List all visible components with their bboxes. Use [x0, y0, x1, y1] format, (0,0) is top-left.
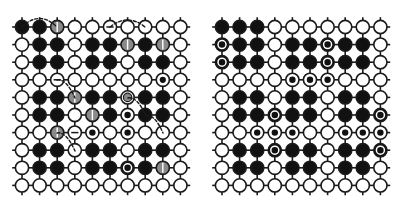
empty-cell[interactable] — [268, 56, 281, 69]
empty-cell[interactable] — [174, 20, 187, 33]
filled-cell[interactable] — [86, 91, 99, 104]
filled-cell[interactable] — [51, 144, 64, 157]
filled-cell[interactable] — [233, 144, 246, 157]
filled-cell[interactable] — [339, 91, 352, 104]
gray-marked-cell[interactable] — [51, 20, 64, 33]
filled-cell[interactable] — [233, 20, 246, 33]
empty-cell[interactable] — [251, 179, 264, 192]
empty-cell-with-black-dot[interactable] — [374, 126, 387, 139]
filled-cell-with-white-dot[interactable] — [374, 108, 387, 121]
filled-cell[interactable] — [356, 144, 369, 157]
filled-cell[interactable] — [356, 56, 369, 69]
empty-cell-with-black-dot[interactable] — [121, 126, 134, 139]
empty-cell[interactable] — [268, 91, 281, 104]
filled-cell[interactable] — [251, 20, 264, 33]
empty-cell[interactable] — [321, 144, 334, 157]
filled-cell[interactable] — [356, 91, 369, 104]
filled-cell[interactable] — [286, 56, 299, 69]
filled-cell[interactable] — [339, 38, 352, 51]
empty-cell[interactable] — [356, 179, 369, 192]
filled-cell[interactable] — [251, 91, 264, 104]
empty-cell[interactable] — [15, 91, 28, 104]
filled-cell-with-white-dot[interactable] — [215, 56, 228, 69]
empty-cell[interactable] — [156, 179, 169, 192]
filled-cell[interactable] — [303, 108, 316, 121]
empty-cell[interactable] — [374, 56, 387, 69]
empty-cell[interactable] — [268, 179, 281, 192]
filled-cell[interactable] — [286, 144, 299, 157]
filled-cell[interactable] — [339, 108, 352, 121]
filled-cell-with-white-dot[interactable] — [321, 56, 334, 69]
empty-cell[interactable] — [215, 161, 228, 174]
empty-cell[interactable] — [33, 73, 46, 86]
empty-cell[interactable] — [15, 38, 28, 51]
filled-cell[interactable] — [33, 91, 46, 104]
filled-cell[interactable] — [103, 108, 116, 121]
filled-cell[interactable] — [86, 161, 99, 174]
empty-cell[interactable] — [174, 91, 187, 104]
filled-cell[interactable] — [303, 38, 316, 51]
filled-cell[interactable] — [33, 161, 46, 174]
filled-cell[interactable] — [339, 144, 352, 157]
empty-cell[interactable] — [268, 38, 281, 51]
empty-cell[interactable] — [174, 38, 187, 51]
filled-cell-with-white-dot[interactable] — [268, 108, 281, 121]
empty-cell[interactable] — [86, 179, 99, 192]
empty-cell[interactable] — [33, 126, 46, 139]
filled-cell[interactable] — [139, 161, 152, 174]
empty-cell[interactable] — [321, 91, 334, 104]
empty-cell[interactable] — [268, 161, 281, 174]
empty-cell[interactable] — [374, 179, 387, 192]
empty-cell[interactable] — [174, 108, 187, 121]
empty-cell[interactable] — [374, 38, 387, 51]
filled-cell[interactable] — [156, 144, 169, 157]
empty-cell[interactable] — [68, 38, 81, 51]
filled-cell[interactable] — [33, 20, 46, 33]
empty-cell[interactable] — [356, 20, 369, 33]
filled-cell[interactable] — [356, 38, 369, 51]
empty-cell-with-black-dot[interactable] — [339, 126, 352, 139]
empty-cell[interactable] — [374, 73, 387, 86]
empty-cell[interactable] — [303, 20, 316, 33]
empty-cell[interactable] — [215, 91, 228, 104]
empty-cell[interactable] — [68, 108, 81, 121]
empty-cell[interactable] — [139, 179, 152, 192]
filled-cell[interactable] — [139, 144, 152, 157]
empty-cell[interactable] — [15, 73, 28, 86]
empty-cell[interactable] — [156, 20, 169, 33]
filled-cell[interactable] — [286, 108, 299, 121]
empty-cell-with-black-dot[interactable] — [356, 126, 369, 139]
empty-cell[interactable] — [121, 56, 134, 69]
filled-cell[interactable] — [356, 161, 369, 174]
empty-cell[interactable] — [174, 161, 187, 174]
empty-cell[interactable] — [174, 73, 187, 86]
gray-marked-cell[interactable] — [156, 161, 169, 174]
filled-cell[interactable] — [303, 56, 316, 69]
filled-cell-with-white-dot[interactable] — [215, 38, 228, 51]
empty-cell-with-black-dot[interactable] — [121, 108, 134, 121]
empty-cell[interactable] — [103, 73, 116, 86]
filled-cell[interactable] — [51, 108, 64, 121]
filled-cell[interactable] — [33, 56, 46, 69]
empty-cell[interactable] — [321, 126, 334, 139]
filled-cell[interactable] — [33, 144, 46, 157]
empty-cell[interactable] — [51, 179, 64, 192]
filled-cell[interactable] — [86, 144, 99, 157]
empty-cell[interactable] — [233, 179, 246, 192]
filled-cell-with-white-dot[interactable] — [321, 38, 334, 51]
empty-cell[interactable] — [103, 179, 116, 192]
gray-marked-cell[interactable] — [156, 38, 169, 51]
filled-cell[interactable] — [139, 91, 152, 104]
filled-cell[interactable] — [103, 38, 116, 51]
empty-cell-with-black-dot[interactable] — [286, 126, 299, 139]
filled-cell[interactable] — [51, 56, 64, 69]
filled-cell[interactable] — [103, 91, 116, 104]
empty-cell[interactable] — [215, 126, 228, 139]
filled-cell[interactable] — [51, 91, 64, 104]
empty-cell-with-black-dot[interactable] — [303, 73, 316, 86]
filled-cell[interactable] — [103, 161, 116, 174]
empty-cell[interactable] — [251, 73, 264, 86]
filled-cell[interactable] — [286, 91, 299, 104]
empty-cell[interactable] — [139, 126, 152, 139]
empty-cell[interactable] — [33, 179, 46, 192]
